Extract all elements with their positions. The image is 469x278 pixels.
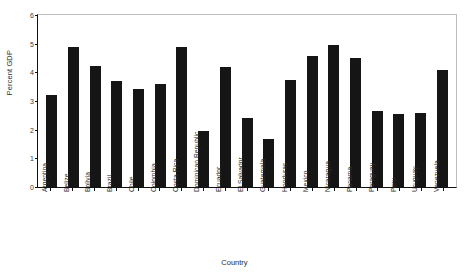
x-axis-tick-label: Peru	[389, 178, 396, 192]
bar-slot	[345, 15, 367, 187]
bar	[68, 47, 79, 187]
x-axis-tick-mark	[356, 188, 357, 191]
y-axis-tick-label: 0	[30, 184, 34, 191]
x-axis-tick-label: Belize	[62, 173, 69, 192]
bar-series	[38, 15, 456, 187]
x-axis-tick-label: Dominican Republic	[193, 132, 200, 192]
x-axis-tick-mark	[399, 188, 400, 191]
bar	[46, 95, 57, 187]
x-axis-label-slot: Nicaragua	[323, 192, 345, 262]
bar	[111, 81, 122, 187]
x-axis-tick-mark	[94, 188, 95, 191]
bar	[393, 114, 404, 187]
x-axis-label-slot: Argentina	[40, 192, 62, 262]
bar-slot	[215, 15, 237, 187]
x-axis-label-slot: El Salvador	[236, 192, 258, 262]
y-axis-tick-label: 4	[30, 69, 34, 76]
bar-chart: Percent GDP 0123456 ArgentinaBelizeBoliv…	[0, 0, 469, 278]
x-axis-tick-label: Bolivia	[84, 172, 91, 192]
x-axis-label-slot: Panama	[345, 192, 367, 262]
x-axis-tick-labels: ArgentinaBelizeBoliviaBrazilChileColombi…	[37, 192, 457, 262]
x-axis-tick-mark	[159, 188, 160, 191]
x-axis-tick-label: Colombia	[149, 163, 156, 192]
x-axis-tick-mark	[116, 188, 117, 191]
x-axis-tick-mark	[312, 188, 313, 191]
x-axis-tick-mark	[50, 188, 51, 191]
x-axis-label-slot: Bolivia	[84, 192, 106, 262]
bar-slot	[41, 15, 63, 187]
y-axis-tick-label: 1	[30, 155, 34, 162]
bar	[307, 56, 318, 187]
y-axis-tick-label: 6	[30, 12, 34, 19]
x-axis-tick-mark	[181, 188, 182, 191]
x-axis-tick-label: Venezuela	[433, 160, 440, 192]
x-axis-label-slot: Dominican Republic	[193, 192, 215, 262]
y-axis-title: Percent GDP	[5, 50, 17, 95]
bar-slot	[366, 15, 388, 187]
x-axis-tick-label: Nicaragua	[324, 161, 331, 192]
x-axis-tick-label: Guatemala	[258, 159, 265, 192]
bar	[198, 131, 209, 187]
x-axis-label-slot: Ecuador	[214, 192, 236, 262]
bar-slot	[84, 15, 106, 187]
x-axis-tick-label: Uruguay	[411, 166, 418, 192]
x-axis-label-slot: Paraguay	[367, 192, 389, 262]
x-axis-tick-label: Mexico	[302, 171, 309, 192]
bar-slot	[149, 15, 171, 187]
x-axis-tick-label: Ecuador	[215, 167, 222, 192]
bar-slot	[388, 15, 410, 187]
x-axis-tick-label: Chile	[128, 177, 135, 193]
x-axis-label-slot: Brazil	[105, 192, 127, 262]
x-axis-tick-label: Costa Rica	[171, 159, 178, 192]
x-axis-label-slot: Peru	[389, 192, 411, 262]
x-axis-tick-mark	[268, 188, 269, 191]
bar	[90, 66, 101, 187]
x-axis-label-slot: Mexico	[302, 192, 324, 262]
bar-slot	[280, 15, 302, 187]
x-axis-label-slot: Honduras	[280, 192, 302, 262]
x-axis-tick-label: Argentina	[40, 163, 47, 192]
bar-slot	[106, 15, 128, 187]
x-axis-tick-mark	[290, 188, 291, 191]
y-axis-tick-label: 3	[30, 98, 34, 105]
x-axis-tick-mark	[203, 188, 204, 191]
x-axis-tick-mark	[138, 188, 139, 191]
x-axis-tick-mark	[72, 188, 73, 191]
x-axis-label-slot: Costa Rica	[171, 192, 193, 262]
bar-slot	[410, 15, 432, 187]
plot-area: 0123456	[37, 14, 457, 188]
x-axis-tick-label: Honduras	[280, 163, 287, 192]
x-axis-label-slot: Chile	[127, 192, 149, 262]
x-axis-tick-mark	[377, 188, 378, 191]
x-axis-label-slot: Uruguay	[411, 192, 433, 262]
x-axis-label-slot: Colombia	[149, 192, 171, 262]
x-axis-tick-mark	[421, 188, 422, 191]
x-axis-tick-mark	[225, 188, 226, 191]
x-axis-label-slot: Guatemala	[258, 192, 280, 262]
x-axis-tick-label: El Salvador	[237, 157, 244, 192]
x-axis-tick-mark	[247, 188, 248, 191]
x-axis-tick-mark	[334, 188, 335, 191]
x-axis-tick-label: Paraguay	[367, 163, 374, 192]
y-axis-tick-label: 2	[30, 126, 34, 133]
bar-slot	[301, 15, 323, 187]
x-axis-tick-mark	[443, 188, 444, 191]
bar-slot	[63, 15, 85, 187]
bar-slot	[128, 15, 150, 187]
x-axis-tick-label: Brazil	[106, 175, 113, 192]
y-axis-tick-label: 5	[30, 40, 34, 47]
bar	[133, 89, 144, 187]
x-axis-tick-label: Panama	[346, 167, 353, 192]
x-axis-label-slot: Venezuela	[432, 192, 454, 262]
x-axis-label-slot: Belize	[62, 192, 84, 262]
x-axis-title: Country	[0, 258, 469, 267]
